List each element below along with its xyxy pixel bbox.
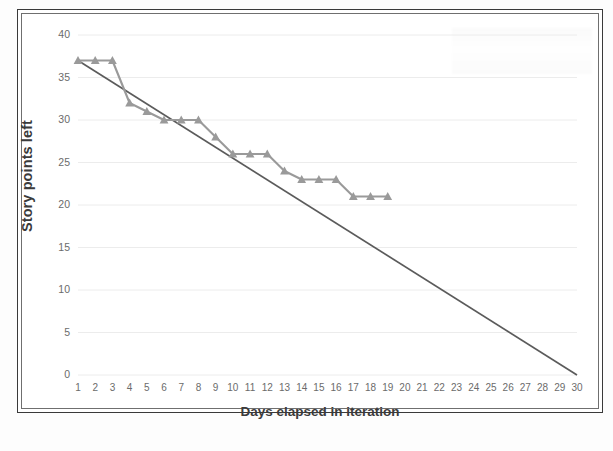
ideal-burndown-line xyxy=(78,61,577,376)
y-axis-tick: 10 xyxy=(42,284,70,295)
y-axis-tick: 15 xyxy=(42,242,70,253)
y-axis-tick: 25 xyxy=(42,157,70,168)
x-axis-tick: 30 xyxy=(566,383,588,393)
actual-burndown-line xyxy=(78,61,388,197)
y-axis-tick: 35 xyxy=(42,72,70,83)
y-axis-tick: 20 xyxy=(42,199,70,210)
gridlines xyxy=(78,35,577,375)
y-axis-title: Story points left xyxy=(19,96,35,256)
burndown-chart: Story points left Days elapsed in iterat… xyxy=(0,0,613,451)
scanned-page: Story points left Days elapsed in iterat… xyxy=(0,0,613,451)
y-axis-tick: 0 xyxy=(42,369,70,380)
y-axis-tick: 40 xyxy=(42,29,70,40)
y-axis-tick: 30 xyxy=(42,114,70,125)
y-axis-tick: 5 xyxy=(42,327,70,338)
x-axis-title: Days elapsed in iteration xyxy=(80,404,560,419)
